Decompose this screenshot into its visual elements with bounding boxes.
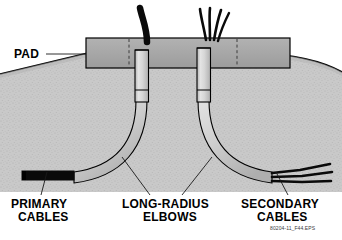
pad-slab (86, 38, 290, 68)
primary-cable (140, 8, 147, 42)
conduit-riser-right (197, 48, 211, 102)
primary-cable-exit-left (22, 171, 74, 180)
secondary-cables-above-pad (200, 8, 229, 41)
figure-reference-code: 80204-11_F44.EPS (270, 225, 316, 231)
callout-label-elbows-line1: LONG-RADIUS (122, 197, 209, 211)
technical-diagram-figure: PAD PRIMARY CABLES LONG-RADIUS ELBOWS SE… (0, 0, 342, 240)
callout-label-pad: PAD (14, 47, 39, 61)
callout-label-secondary-line2: CABLES (257, 210, 308, 224)
callout-label-secondary-line1: SECONDARY (241, 197, 319, 211)
callout-label-elbows-line2: ELBOWS (143, 210, 197, 224)
callout-label-primary-line2: CABLES (18, 210, 69, 224)
conduit-riser-left (135, 50, 149, 102)
primary-cable-above-pad (140, 8, 147, 42)
primary-cable-end-cap (22, 171, 26, 180)
callout-label-primary-line1: PRIMARY (11, 197, 67, 211)
concrete-pad (86, 38, 290, 68)
diagram-canvas: PAD PRIMARY CABLES LONG-RADIUS ELBOWS SE… (0, 0, 342, 240)
secondary-cable (200, 9, 206, 40)
primary-cable (22, 171, 74, 180)
